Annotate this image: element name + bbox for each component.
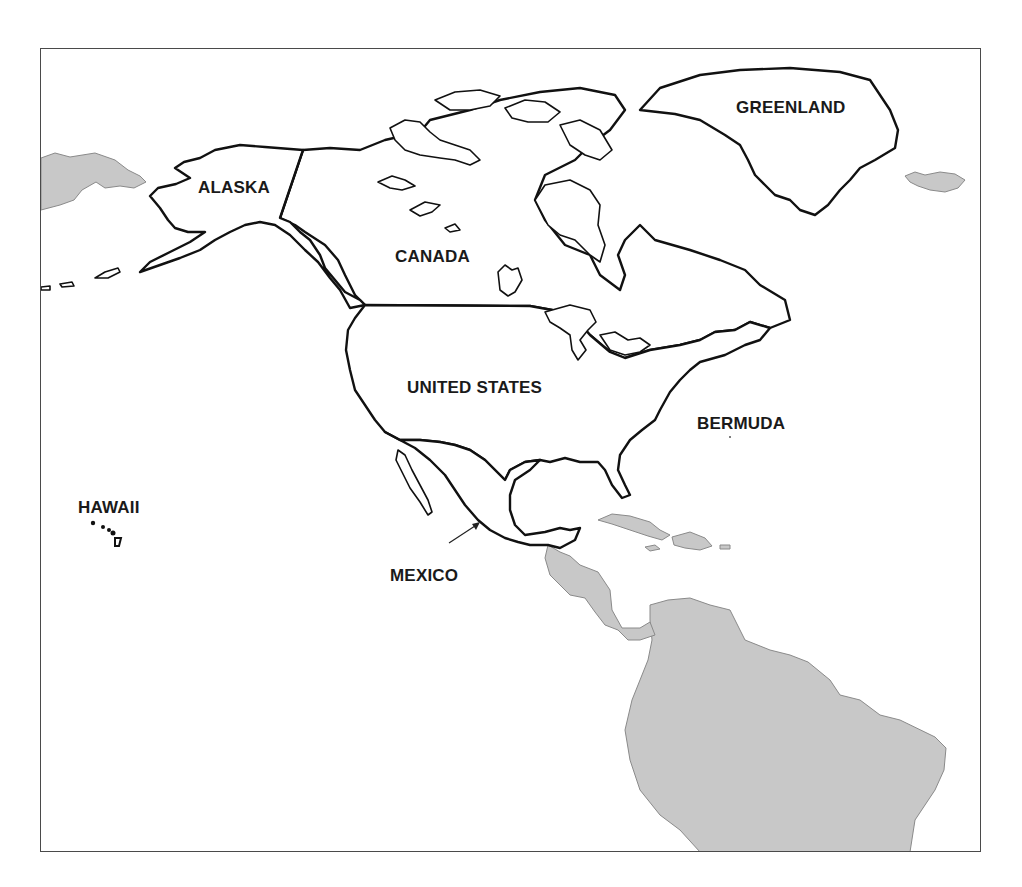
region-russia: [41, 153, 146, 210]
region-aleutians: [41, 268, 120, 290]
label-mexico: MEXICO: [390, 566, 458, 586]
region-hawaii: [91, 521, 121, 546]
label-canada: CANADA: [395, 247, 470, 267]
label-bermuda: BERMUDA: [697, 414, 785, 434]
label-alaska: ALASKA: [198, 178, 270, 198]
label-greenland: GREENLAND: [736, 98, 845, 118]
region-puerto-rico: [720, 545, 730, 549]
label-united-states: UNITED STATES: [407, 378, 542, 398]
region-baja-california: [396, 450, 432, 515]
region-cuba: [598, 514, 670, 540]
region-south-america: [625, 598, 946, 852]
region-bermuda: [729, 436, 731, 438]
region-hispaniola: [672, 532, 712, 550]
region-central-america: [545, 545, 655, 640]
north-america-map: [0, 0, 1022, 887]
region-jamaica: [645, 545, 660, 551]
mexico-arrow: [449, 522, 480, 543]
us-canada-border: [365, 305, 530, 306]
label-hawaii: HAWAII: [78, 498, 140, 518]
region-greenland: [640, 68, 898, 215]
region-iceland: [905, 172, 965, 192]
